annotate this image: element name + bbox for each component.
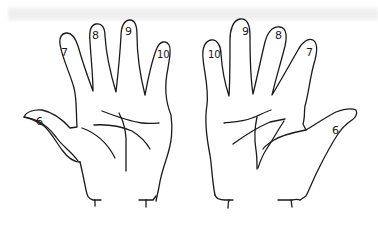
left-palm-head-line [94,125,150,149]
hands-diagram: 6 7 8 9 10 10 9 8 7 6 [0,0,378,225]
right-middle-label: 8 [275,29,282,42]
left-ring-label: 9 [125,25,132,38]
right-palm-life-line [258,121,284,168]
right-hand-outline [203,19,357,200]
left-wrist-left-edge [80,162,101,200]
hands-drawing: 6 7 8 9 10 10 9 8 7 6 [0,0,378,225]
right-palm-heart-line [224,110,271,123]
left-palm-life-line [82,128,115,158]
left-hand-outline [24,20,172,201]
right-little-label: 10 [208,49,221,60]
left-little-label: 10 [157,49,170,60]
left-thumb-label: 6 [36,115,43,128]
right-wrist-right-foot [278,199,300,200]
right-wrist-left-tick [228,200,229,208]
right-palm-fate-line [255,117,257,169]
right-wrist-left-foot [215,195,233,200]
right-thumb-label: 6 [332,124,339,137]
left-palm-fate-line [119,113,126,171]
right-hand-labels: 10 9 8 7 6 [208,25,339,137]
right-thumb-inner-line [263,130,306,149]
right-ring-label: 9 [242,25,249,38]
left-hand-labels: 6 7 8 9 10 [36,25,170,128]
left-index-label: 7 [61,46,68,59]
left-thumb-inner-line [24,117,80,162]
right-index-label: 7 [306,46,313,59]
right-hand [203,19,357,208]
left-hand [24,20,172,207]
left-middle-label: 8 [92,29,99,42]
left-palm-heart-line [102,111,159,123]
right-wrist-right-tick [291,200,292,207]
left-wrist-right-foot [139,196,156,200]
